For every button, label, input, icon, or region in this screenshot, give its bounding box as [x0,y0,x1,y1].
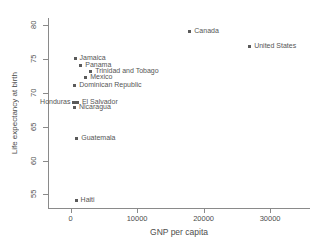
y-tick-label-70: 70 [30,85,38,101]
y-tick-65 [43,127,48,128]
point-marker [188,30,191,33]
y-tick-55 [43,194,48,195]
x-tick-label-0: 0 [69,214,73,223]
point-label: Guatemala [81,134,115,142]
point-marker [75,199,78,202]
point-label: Dominican Republic [79,81,141,89]
point-marker [74,57,77,60]
scatter-chart: 556065707580 0100002000030000 CanadaUnit… [0,0,318,246]
x-tick-label-10000: 10000 [127,214,148,223]
point-label: United States [254,42,296,50]
point-label: Nicaragua [79,103,111,111]
x-tick-0 [71,208,72,213]
point-marker [248,45,251,48]
y-tick-label-75: 75 [30,51,38,67]
y-tick-label-65: 65 [30,119,38,135]
y-tick-75 [43,59,48,60]
point-marker [73,84,76,87]
y-tick-70 [43,93,48,94]
y-tick-80 [43,25,48,26]
x-tick-10000 [137,208,138,213]
point-label: Mexico [90,73,112,81]
x-tick-label-30000: 30000 [260,214,281,223]
y-axis-title-text: Life expectancy at birth [10,72,19,154]
y-tick-60 [43,161,48,162]
y-tick-label-60: 60 [30,153,38,169]
x-axis-title-text: GNP per capita [150,227,208,237]
x-tick-label-20000: 20000 [193,214,214,223]
point-marker [84,76,87,79]
point-marker [79,64,82,67]
point-label: Honduras [40,98,70,106]
x-axis-title: GNP per capita [48,227,310,237]
y-tick-label-55: 55 [30,186,38,202]
point-marker [73,106,76,109]
x-tick-30000 [270,208,271,213]
x-tick-20000 [204,208,205,213]
point-label: Canada [194,27,219,35]
y-axis-title: Life expectancy at birth [8,18,20,208]
y-tick-label-80: 80 [30,17,38,33]
y-axis-line [48,18,49,208]
point-label: Haiti [81,196,95,204]
point-marker [75,137,78,140]
